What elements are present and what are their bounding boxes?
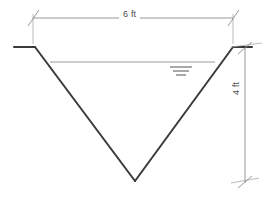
- left-channel-wall: [35, 47, 135, 181]
- channel-cross-section-drawing: [0, 0, 271, 198]
- depth-dimension: [231, 42, 262, 188]
- diagram-canvas: 6 ft 4 ft: [0, 0, 271, 198]
- channel-section: [14, 47, 252, 181]
- depth-dimension-label: 4 ft: [231, 78, 242, 99]
- water-level-symbol: [170, 67, 192, 75]
- width-dimension-label: 6 ft: [119, 9, 140, 20]
- water-surface: [50, 62, 215, 75]
